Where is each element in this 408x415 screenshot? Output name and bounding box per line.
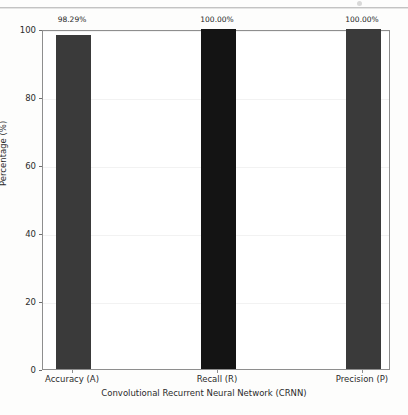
scan-artifact-speck [357,1,362,6]
y-tick-label: 100 [0,25,36,35]
scan-artifact-line-secondary [0,8,408,9]
bar-value-label: 98.29% [58,15,87,24]
y-tick-mark [39,370,42,371]
y-tick-label: 0 [0,365,36,375]
y-tick-label: 60 [0,161,36,171]
y-tick-label: 40 [0,229,36,239]
bar-accuracy-a [56,35,91,369]
x-tick-label: Recall (R) [197,374,238,384]
bar-value-label: 100.00% [200,15,233,24]
y-axis-label: Percentage (%) [0,121,8,186]
y-tick-label: 80 [0,93,36,103]
bar-precision-p [346,29,381,369]
bar-value-label: 100.00% [345,15,378,24]
x-axis-label: Convolutional Recurrent Neural Network (… [0,388,408,398]
x-tick-mark [217,370,218,373]
plot-area [42,30,390,370]
y-tick-label: 20 [0,297,36,307]
x-tick-mark [72,370,73,373]
x-tick-label: Accuracy (A) [45,374,99,384]
bar-recall-r [201,29,236,369]
x-tick-mark [362,370,363,373]
x-tick-label: Precision (P) [336,374,388,384]
chart-figure: Percentage (%) 020406080100 98.29%100.00… [0,0,408,415]
